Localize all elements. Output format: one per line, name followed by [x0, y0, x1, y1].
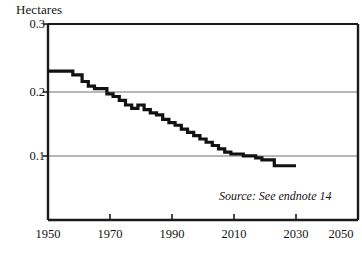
plot-area [0, 0, 362, 253]
chart-figure: Hectares 0.3 0.2 0.1 1950 1970 1990 2010… [0, 0, 362, 253]
axis-frame [48, 24, 358, 220]
gridlines [48, 92, 358, 156]
data-series-line [48, 71, 296, 166]
